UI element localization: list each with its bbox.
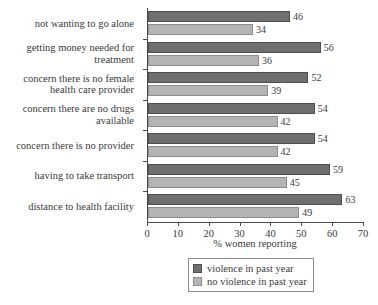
legend-label: no violence in past year bbox=[207, 276, 307, 288]
bar bbox=[148, 194, 342, 205]
category-label-line: treatment bbox=[94, 54, 134, 66]
category-tick bbox=[143, 69, 147, 70]
bar-value-label: 42 bbox=[281, 116, 291, 127]
bar-group: 5442 bbox=[147, 130, 363, 161]
category-label-line: concern there is no provider bbox=[16, 140, 134, 152]
category-tick bbox=[143, 39, 147, 40]
legend-item-violence: violence in past year bbox=[193, 262, 307, 275]
bar bbox=[148, 24, 253, 35]
category-tick bbox=[143, 161, 147, 162]
bar-value-label: 63 bbox=[345, 194, 355, 205]
bar bbox=[148, 164, 330, 175]
category-tick bbox=[143, 191, 147, 192]
category-label: not wanting to go alone bbox=[0, 8, 134, 39]
bar bbox=[148, 207, 299, 218]
bar bbox=[148, 42, 321, 53]
bar-value-label: 39 bbox=[271, 85, 281, 96]
bar-value-label: 46 bbox=[293, 11, 303, 22]
legend-swatch-icon bbox=[193, 277, 202, 286]
category-tick bbox=[143, 130, 147, 131]
bar-chart: not wanting to go alonegetting money nee… bbox=[0, 0, 378, 305]
category-label-line: having to take transport bbox=[35, 170, 134, 182]
bar-value-label: 56 bbox=[324, 42, 334, 53]
bar-group: 5442 bbox=[147, 100, 363, 131]
bar-value-label: 45 bbox=[290, 177, 300, 188]
x-axis-title: % women reporting bbox=[147, 238, 363, 249]
bar-value-label: 42 bbox=[281, 146, 291, 157]
x-tick bbox=[363, 222, 364, 226]
category-label: concern there are no drugsavailable bbox=[0, 100, 134, 131]
bar-value-label: 59 bbox=[333, 164, 343, 175]
bar bbox=[148, 55, 259, 66]
bar-value-label: 36 bbox=[262, 55, 272, 66]
x-tick bbox=[178, 222, 179, 226]
bar bbox=[148, 72, 308, 83]
bar-group: 5945 bbox=[147, 161, 363, 192]
bar-value-label: 49 bbox=[302, 207, 312, 218]
bar bbox=[148, 11, 290, 22]
chart-legend: violence in past year no violence in pas… bbox=[188, 258, 314, 292]
category-label-line: distance to health facility bbox=[28, 201, 134, 213]
legend-item-no-violence: no violence in past year bbox=[193, 275, 307, 288]
x-tick bbox=[301, 222, 302, 226]
category-label: concern there is no femalehealth care pr… bbox=[0, 69, 134, 100]
category-label-line: concern there are no drugs bbox=[23, 103, 134, 115]
x-tick bbox=[240, 222, 241, 226]
category-label-line: health care provider bbox=[50, 84, 134, 96]
x-axis-line bbox=[147, 222, 363, 223]
bar-group: 4634 bbox=[147, 8, 363, 39]
plot-area: 4634563652395442544259456349 01020304050… bbox=[147, 8, 363, 222]
bar bbox=[148, 177, 287, 188]
bar-value-label: 54 bbox=[318, 133, 328, 144]
x-tick bbox=[270, 222, 271, 226]
category-label-line: available bbox=[96, 115, 134, 127]
category-label-line: not wanting to go alone bbox=[35, 18, 134, 30]
bar-group: 5636 bbox=[147, 39, 363, 70]
bar bbox=[148, 133, 315, 144]
bar bbox=[148, 116, 278, 127]
category-label-line: concern there is no female bbox=[23, 73, 134, 85]
bar-group: 6349 bbox=[147, 191, 363, 222]
bar-value-label: 34 bbox=[256, 24, 266, 35]
bar-value-label: 52 bbox=[311, 72, 321, 83]
bar bbox=[148, 85, 268, 96]
category-tick bbox=[143, 100, 147, 101]
x-tick bbox=[147, 222, 148, 226]
legend-label: violence in past year bbox=[207, 263, 294, 275]
category-label: getting money needed fortreatment bbox=[0, 39, 134, 70]
x-tick bbox=[209, 222, 210, 226]
category-label: concern there is no provider bbox=[0, 130, 134, 161]
bar-value-label: 54 bbox=[318, 103, 328, 114]
bar bbox=[148, 146, 278, 157]
x-tick bbox=[332, 222, 333, 226]
legend-swatch-icon bbox=[193, 264, 202, 273]
bar-group: 5239 bbox=[147, 69, 363, 100]
category-label-line: getting money needed for bbox=[26, 42, 134, 54]
bar bbox=[148, 103, 315, 114]
category-label: distance to health facility bbox=[0, 191, 134, 222]
category-label: having to take transport bbox=[0, 161, 134, 192]
category-axis-labels: not wanting to go alonegetting money nee… bbox=[0, 8, 140, 222]
